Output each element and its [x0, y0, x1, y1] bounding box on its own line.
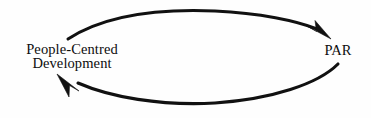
cycle-diagram: People-Centred Development PAR [0, 0, 371, 118]
top-arrowhead-icon [306, 21, 331, 40]
node-label-par: PAR [305, 43, 371, 57]
bottom-arrowhead-icon [57, 74, 79, 97]
top-arrow-curve [68, 11, 317, 39]
node-label-line-2: Development [4, 57, 140, 71]
node-label-people-centred-development: People-Centred Development [4, 43, 140, 70]
node-label-line-1: PAR [324, 42, 351, 58]
